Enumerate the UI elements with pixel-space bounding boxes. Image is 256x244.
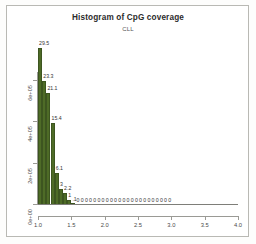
bar-value-label: 0	[106, 197, 109, 203]
x-axis-tick-label: 2.5	[128, 222, 148, 228]
x-axis-tick	[205, 216, 206, 220]
x-axis-tick-label: 1.5	[61, 222, 81, 228]
plot-baseline	[38, 204, 238, 205]
x-axis-tick-label: 2.0	[95, 222, 115, 228]
bar-value-label: 0	[110, 197, 113, 203]
y-axis-tick-label: 4e+05	[27, 121, 33, 147]
bar-value-label: 0	[114, 197, 117, 203]
x-axis-tick	[138, 216, 139, 220]
bar-value-label: 1	[68, 192, 71, 198]
x-axis-tick-label: 3.0	[161, 222, 181, 228]
x-axis-tick-label: 3.5	[195, 222, 215, 228]
bar-value-label: 23.3	[43, 73, 53, 79]
bar-value-label: 0	[164, 197, 167, 203]
bar-value-label: 0	[139, 197, 142, 203]
bar-value-label: 0	[160, 197, 163, 203]
bar-value-label: 0	[85, 197, 88, 203]
figure-canvas: Histogram of CpG coverage CLL Frequency …	[0, 0, 256, 244]
y-axis-tick-label: 2e+05	[27, 163, 33, 189]
bar-value-label: 3	[60, 181, 63, 187]
y-axis-tick-label: 6e+05	[27, 80, 33, 106]
bar-value-label: 6.1	[56, 165, 63, 171]
bar-value-label: 0	[152, 197, 155, 203]
x-axis-tick-label: 4.0	[228, 222, 248, 228]
bar-value-label: 0	[102, 197, 105, 203]
x-axis-tick	[38, 216, 39, 220]
x-axis-tick-label: 1.0	[28, 222, 48, 228]
bar-value-label: 29.5	[39, 40, 49, 46]
bar-value-label: 0	[156, 197, 159, 203]
x-axis-tick	[171, 216, 172, 220]
bar-value-label: 15.4	[52, 115, 62, 121]
x-axis-tick	[105, 216, 106, 220]
bar-value-label: 0	[147, 197, 150, 203]
bar-value-label: 0	[131, 197, 134, 203]
bar-value-label: 0	[81, 197, 84, 203]
x-axis-tick	[71, 216, 72, 220]
bar-value-label: 0	[143, 197, 146, 203]
bar-value-label: 0	[77, 197, 80, 203]
bar-value-label: 0	[168, 197, 171, 203]
bar-value-label: 0	[93, 197, 96, 203]
x-axis-tick	[238, 216, 239, 220]
bar-value-label: 0	[135, 197, 138, 203]
bar-value-label: 0	[97, 197, 100, 203]
bar-value-label: 21.1	[47, 85, 57, 91]
bar-value-label: 2.2	[64, 185, 71, 191]
page-title: Histogram of CpG coverage	[0, 13, 256, 22]
bar-value-label: 0	[118, 197, 121, 203]
bar-value-label: 0	[122, 197, 125, 203]
bar-value-label: 0	[127, 197, 130, 203]
chart-subtitle: CLL	[0, 26, 256, 32]
bar-value-label: 0	[89, 197, 92, 203]
bar-series	[38, 33, 238, 205]
